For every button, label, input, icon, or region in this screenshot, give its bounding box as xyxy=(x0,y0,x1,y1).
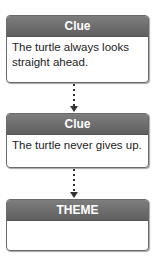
dotted-line xyxy=(73,169,75,192)
clue-box-1: Clue The turtle always looks straight ah… xyxy=(6,15,149,83)
connector-2 xyxy=(72,169,77,198)
dotted-line xyxy=(73,84,75,106)
arrow-down-icon xyxy=(70,106,78,112)
clue-box-2-title: Clue xyxy=(7,114,148,135)
clue-box-1-text: The turtle always looks straight ahead. xyxy=(7,37,148,73)
clue-box-2-text: The turtle never gives up. xyxy=(7,135,148,156)
theme-box-title: THEME xyxy=(7,200,148,221)
theme-box-answer[interactable] xyxy=(7,221,148,227)
arrow-down-icon xyxy=(70,192,78,198)
clue-box-2: Clue The turtle never gives up. xyxy=(6,113,149,168)
clue-box-1-title: Clue xyxy=(7,16,148,37)
connector-1 xyxy=(72,84,77,112)
theme-box: THEME xyxy=(6,199,149,251)
